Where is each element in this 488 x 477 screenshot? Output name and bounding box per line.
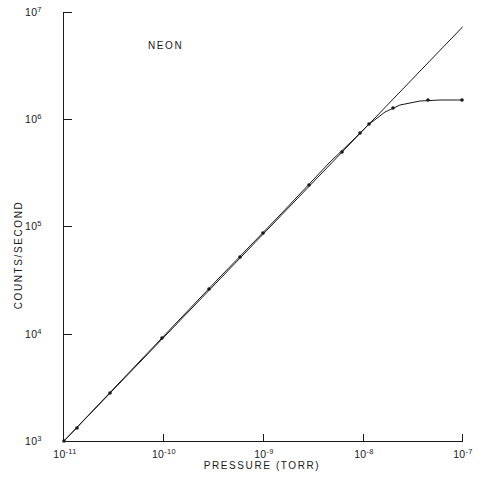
data-point-marker — [238, 255, 242, 259]
data-point-marker — [62, 439, 66, 443]
x-tick-label-1e-7: 10-7 — [453, 447, 473, 460]
data-point-marker — [340, 150, 344, 154]
y-tick-label-1e7: 107 — [25, 5, 42, 18]
x-tick-label-1e-8: 10-8 — [354, 447, 374, 460]
data-point-marker — [391, 106, 395, 110]
y-axis-tick-labels: 107 106 105 104 103 — [25, 5, 42, 447]
x-tick-label-1e-10: 10-10 — [152, 447, 176, 460]
data-point-marker — [367, 122, 371, 126]
log-log-plot: 107 106 105 104 103 10- — [0, 0, 488, 477]
y-axis-title: COUNTS/SECOND — [13, 201, 24, 310]
x-tick-label-1e-11: 10-11 — [53, 447, 76, 460]
y-axis-ticks — [64, 13, 72, 442]
data-point-marker — [426, 98, 430, 102]
y-tick-label-1e3: 103 — [25, 434, 42, 447]
data-point-marker — [108, 391, 112, 395]
x-axis-title: PRESSURE (TORR) — [204, 460, 321, 471]
axes — [64, 12, 464, 442]
data-point-marker — [261, 231, 265, 235]
y-tick-label-1e6: 106 — [25, 112, 42, 125]
data-point-markers — [62, 98, 464, 443]
x-tick-label-1e-9: 10-9 — [254, 447, 274, 460]
plot-title: NEON — [148, 40, 183, 51]
x-axis-ticks — [64, 434, 463, 442]
x-axis-tick-labels: 10-11 10-10 10-9 10-8 10-7 — [53, 447, 473, 460]
data-point-marker — [160, 336, 164, 340]
y-tick-label-1e4: 104 — [25, 327, 42, 340]
y-tick-label-1e5: 105 — [25, 219, 42, 232]
data-point-marker — [307, 183, 311, 187]
chart-figure: 107 106 105 104 103 10- — [0, 0, 488, 477]
data-point-marker — [460, 98, 464, 102]
data-point-marker — [207, 287, 211, 291]
data-point-marker — [75, 426, 79, 430]
data-point-marker — [358, 131, 362, 135]
series-measured-count-rate — [64, 100, 463, 442]
